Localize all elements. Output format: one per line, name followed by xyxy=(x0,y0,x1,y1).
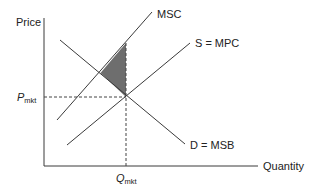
msc-curve xyxy=(57,12,152,120)
price-subscript: mkt xyxy=(24,96,36,105)
quantity-symbol: Q xyxy=(116,172,125,184)
supply-curve xyxy=(67,43,190,145)
quantity-subscript: mkt xyxy=(125,177,137,186)
demand-label: D = MSB xyxy=(190,140,234,151)
price-market-label: Pmkt xyxy=(17,92,36,105)
x-axis-label: Quantity xyxy=(263,161,304,172)
y-axis-label: Price xyxy=(16,17,41,28)
supply-label: S = MPC xyxy=(195,38,239,49)
msc-label: MSC xyxy=(157,9,181,20)
deadweight-loss-area xyxy=(101,43,127,97)
quantity-market-label: Qmkt xyxy=(116,173,137,186)
